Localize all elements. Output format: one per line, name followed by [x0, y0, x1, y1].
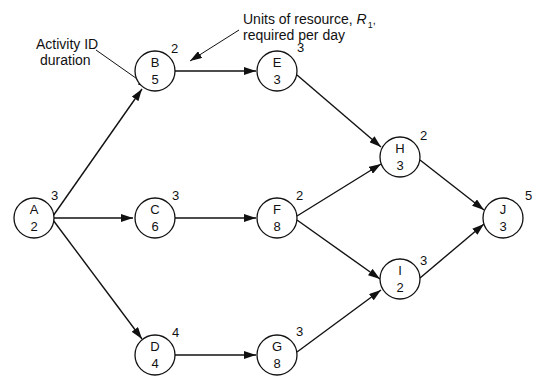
node-duration: 3: [396, 158, 403, 173]
node-resource: 3: [51, 188, 58, 203]
node-duration: 4: [151, 356, 158, 371]
node-duration: 2: [396, 280, 403, 295]
node-id: B: [151, 55, 160, 70]
node-resource: 4: [172, 325, 179, 340]
node-i: I 2 3: [380, 253, 427, 299]
node-id: I: [398, 263, 402, 278]
node-id: H: [395, 141, 404, 156]
node-resource: 5: [525, 188, 532, 203]
node-id: J: [500, 202, 507, 217]
node-resource: 3: [420, 253, 427, 268]
node-id: G: [272, 339, 282, 354]
edge-f-h: [297, 164, 381, 216]
node-id: A: [30, 202, 39, 217]
edge-e-h: [297, 75, 381, 147]
edge-a-d: [53, 220, 142, 339]
edge-h-j: [420, 160, 484, 210]
edge-g-i: [297, 290, 381, 352]
node-id: E: [273, 55, 282, 70]
node-h: H 3 2: [380, 128, 427, 177]
node-duration: 8: [273, 356, 280, 371]
node-resource: 3: [297, 40, 304, 55]
node-f: F 8 2: [257, 188, 303, 238]
node-id: D: [150, 339, 159, 354]
node-c: C 6 3: [135, 188, 179, 238]
node-resource: 3: [172, 188, 179, 203]
node-a: A 2 3: [14, 188, 58, 238]
node-id: C: [150, 202, 159, 217]
node-duration: 3: [499, 219, 506, 234]
node-b: B 5 2: [135, 41, 178, 91]
node-id: F: [273, 202, 281, 217]
node-g: G 8 3: [257, 324, 303, 375]
node-resource: 2: [420, 128, 427, 143]
node-resource: 2: [171, 41, 178, 56]
resource-annotation-line2: required per day: [243, 27, 345, 43]
activity-annotation: Activity ID: [36, 36, 98, 52]
node-resource: 2: [296, 188, 303, 203]
node-duration: 5: [151, 72, 158, 87]
edge-f-i: [297, 220, 380, 279]
node-e: E 3 3: [257, 40, 304, 91]
node-resource: 3: [296, 324, 303, 339]
node-duration: 2: [30, 219, 37, 234]
node-duration: 3: [273, 72, 280, 87]
node-duration: 8: [273, 219, 280, 234]
network-diagram: Activity ID duration Units of resource, …: [0, 0, 546, 378]
edge-a-b: [53, 89, 142, 216]
node-duration: 6: [151, 219, 158, 234]
node-d: D 4 4: [135, 325, 179, 375]
edge-i-j: [420, 224, 484, 278]
resource-pointer: [190, 30, 239, 61]
node-j: J 3 5: [483, 188, 532, 238]
activity-annotation-line2: duration: [40, 52, 91, 68]
